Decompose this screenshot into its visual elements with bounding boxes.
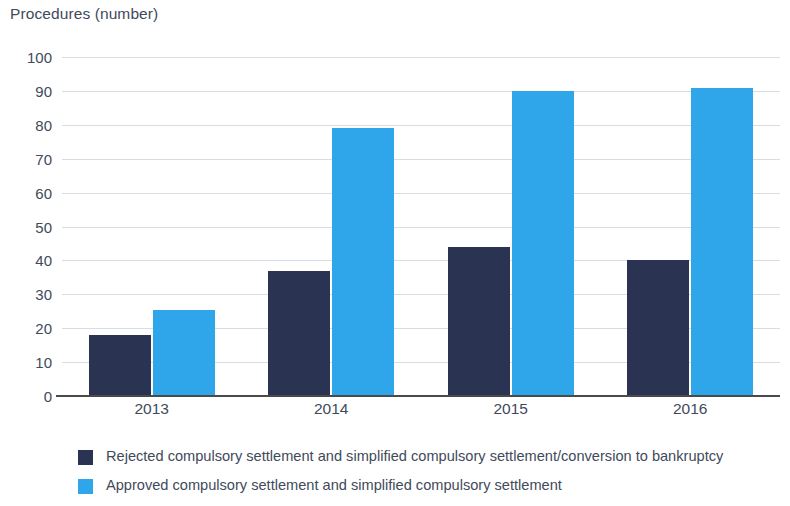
legend-swatch-icon [78, 450, 93, 465]
bar-rejected-2014[interactable] [268, 271, 330, 396]
y-axis-tick-label: 90 [6, 82, 52, 99]
legend-swatch-icon [78, 479, 93, 494]
bar-rejected-2013[interactable] [89, 335, 151, 396]
bar-approved-2015[interactable] [512, 91, 574, 396]
x-axis-line [56, 395, 780, 397]
x-axis-tick-label-2014: 2014 [242, 400, 422, 418]
bar-group-2014 [242, 57, 422, 396]
legend-item-rejected[interactable]: Rejected compulsory settlement and simpl… [78, 448, 778, 465]
bars-layer [62, 57, 780, 396]
x-axis-tick-label-2015: 2015 [421, 400, 601, 418]
x-axis: 2013201420152016 [62, 400, 780, 418]
chart-title: Procedures (number) [10, 5, 158, 23]
bar-approved-2016[interactable] [691, 88, 753, 396]
bar-approved-2013[interactable] [153, 310, 215, 396]
y-axis-tick-label: 70 [6, 150, 52, 167]
legend-item-label: Approved compulsory settlement and simpl… [106, 477, 562, 494]
legend-item-approved[interactable]: Approved compulsory settlement and simpl… [78, 477, 778, 494]
bar-rejected-2016[interactable] [627, 260, 689, 396]
legend-item-label: Rejected compulsory settlement and simpl… [106, 448, 723, 465]
bar-approved-2014[interactable] [332, 128, 394, 396]
bar-group-2015 [421, 57, 601, 396]
y-axis: 1009080706050403020100 [0, 57, 52, 396]
y-axis-tick-label: 40 [6, 252, 52, 269]
x-axis-tick-label-2016: 2016 [601, 400, 781, 418]
plot-area [62, 57, 780, 396]
bar-group-2013 [62, 57, 242, 396]
y-axis-tick-label: 30 [6, 286, 52, 303]
bar-rejected-2015[interactable] [448, 247, 510, 396]
chart-legend: Rejected compulsory settlement and simpl… [78, 448, 778, 506]
bar-chart: Procedures (number) 10090807060504030201… [0, 0, 790, 506]
y-axis-tick-label: 60 [6, 184, 52, 201]
y-axis-tick-label: 0 [6, 388, 52, 405]
y-axis-tick-label: 100 [6, 49, 52, 66]
y-axis-tick-label: 80 [6, 116, 52, 133]
y-axis-tick-label: 50 [6, 218, 52, 235]
y-axis-tick-label: 20 [6, 320, 52, 337]
y-axis-tick-label: 10 [6, 354, 52, 371]
x-axis-tick-label-2013: 2013 [62, 400, 242, 418]
bar-group-2016 [601, 57, 781, 396]
